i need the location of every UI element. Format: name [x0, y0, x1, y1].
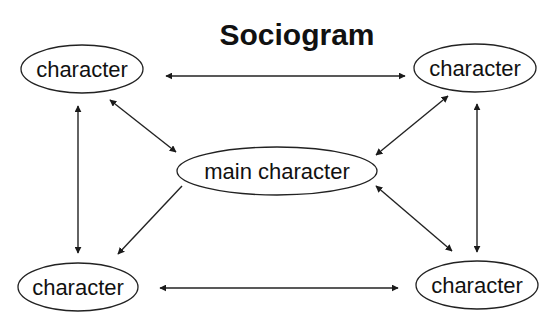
- node-label: character: [429, 56, 521, 81]
- node-bottom-right: character: [416, 261, 538, 309]
- node-top-right: character: [414, 44, 536, 92]
- arrow-center-to-bottom-right: [376, 186, 452, 251]
- arrow-top-left-to-center: [110, 100, 176, 152]
- node-label: character: [36, 57, 128, 82]
- arrow-center-to-bottom-left: [118, 186, 182, 254]
- arrow-top-right-to-center: [376, 96, 448, 155]
- node-label: main character: [204, 159, 350, 184]
- sociogram-diagram: Sociogram charactercharactermain charact…: [0, 0, 556, 323]
- node-center: main character: [177, 147, 377, 195]
- node-label: character: [431, 273, 523, 298]
- diagram-title: Sociogram: [219, 18, 374, 51]
- node-bottom-left: character: [18, 263, 138, 311]
- node-top-left: character: [21, 45, 143, 93]
- node-label: character: [32, 275, 124, 300]
- nodes-layer: charactercharactermain charactercharacte…: [18, 44, 538, 311]
